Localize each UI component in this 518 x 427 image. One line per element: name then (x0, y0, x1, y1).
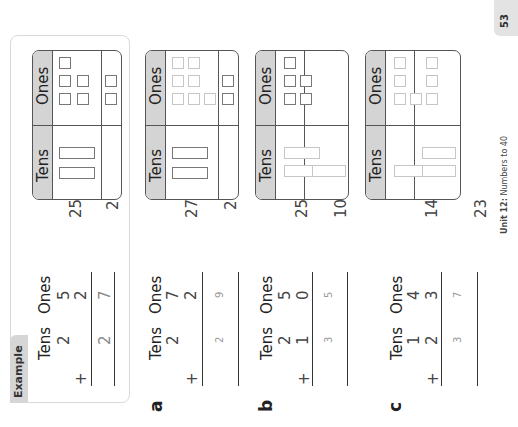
one-cube (105, 75, 117, 87)
tens-header: Tens (34, 149, 52, 182)
one-cube (59, 75, 71, 87)
row-divider (218, 51, 219, 200)
one-cube (77, 93, 89, 105)
one-cube (188, 75, 200, 87)
example-label: Example (12, 345, 25, 398)
row2-number: 2 (104, 200, 122, 210)
sum-rule-bottom (114, 272, 115, 386)
sum-rule-bottom (347, 272, 348, 386)
row2-number: 10 (332, 199, 350, 218)
plus-sign: + (424, 372, 442, 385)
row-divider (101, 51, 102, 200)
one-cube (188, 93, 200, 105)
column-divider (256, 125, 349, 126)
row-divider (414, 51, 415, 200)
sum-tens-header: Tens (258, 327, 276, 360)
row-divider (304, 51, 305, 200)
one-cube (188, 57, 200, 69)
one-cube (172, 93, 184, 105)
one-cube (410, 93, 422, 105)
sum-top-ones: 5 (55, 290, 73, 300)
sum-rule-bottom (477, 272, 478, 386)
one-cube (426, 75, 438, 87)
one-cube (59, 93, 71, 105)
tens-header: Tens (257, 149, 275, 182)
sum-ones-header: Ones (388, 276, 406, 314)
sum-add-tens: 2 (423, 335, 441, 345)
one-cube (394, 75, 406, 87)
row1-number: 27 (183, 199, 201, 218)
problem-label-c: c (385, 402, 405, 412)
one-cube (300, 75, 312, 87)
sum-add-ones: 2 (72, 290, 90, 300)
sum-rule-bottom (238, 272, 239, 386)
sum-add-ones: 0 (294, 290, 312, 300)
ten-rod (59, 147, 95, 159)
one-cube (105, 93, 117, 105)
sum-add-tens: 1 (294, 335, 312, 345)
sum-rule-top (202, 272, 203, 386)
column-divider (146, 125, 239, 126)
sum-top-ones: 7 (164, 290, 182, 300)
footer-unit: Unit 12: (500, 198, 509, 234)
footer-title: Numbers to 40 (500, 136, 509, 196)
ten-rod (284, 147, 320, 159)
plus-sign: + (72, 372, 90, 385)
sum-answer-ones: 9 (214, 292, 225, 298)
ones-header: Ones (147, 67, 165, 105)
column-divider (33, 125, 122, 126)
ones-header: Ones (367, 67, 385, 105)
ten-rod (312, 165, 346, 177)
sum-top-tens: 2 (164, 335, 182, 345)
problem-label-a: a (146, 401, 166, 412)
sum-answer-tens: 2 (214, 337, 225, 343)
one-cube (300, 93, 312, 105)
one-cube (222, 75, 234, 87)
footer: Unit 12: Numbers to 40 (500, 136, 509, 234)
ten-rod (422, 147, 456, 159)
one-cube (284, 57, 296, 69)
sum-add-ones: 2 (182, 290, 200, 300)
ones-header: Ones (34, 67, 52, 105)
sum-rule-top (441, 272, 442, 386)
one-cube (394, 57, 406, 69)
one-cube (284, 93, 296, 105)
sum-ones-header: Ones (258, 276, 276, 314)
sum-answer-tens: 3 (323, 337, 334, 343)
ones-header: Ones (257, 67, 275, 105)
one-cube (77, 75, 89, 87)
ten-rod (422, 165, 456, 177)
sum-top-tens: 1 (405, 335, 423, 345)
one-cube (222, 93, 234, 105)
sum-rule-top (312, 272, 313, 386)
sum-answer-tens: 2 (96, 335, 114, 345)
tens-header: Tens (147, 149, 165, 182)
plus-sign: + (183, 372, 201, 385)
sum-top-ones: 4 (405, 290, 423, 300)
row1-number: 14 (423, 199, 441, 218)
sum-add-ones: 3 (423, 290, 441, 300)
ten-rod (59, 167, 95, 179)
sum-rule-top (91, 272, 92, 386)
sum-ones-header: Ones (147, 276, 165, 314)
ten-rod (172, 147, 208, 159)
sum-top-tens: 2 (276, 335, 294, 345)
sum-tens-header: Tens (147, 327, 165, 360)
one-cube (426, 93, 438, 105)
ten-rod (172, 167, 208, 179)
sum-ones-header: Ones (36, 276, 54, 314)
sum-answer-tens: 3 (452, 337, 463, 343)
one-cube (172, 57, 184, 69)
sum-tens-header: Tens (388, 327, 406, 360)
one-cube (426, 57, 438, 69)
page-number: 53 (499, 14, 510, 28)
row1-number: 25 (67, 199, 85, 218)
one-cube (394, 93, 406, 105)
sum-tens-header: Tens (36, 327, 54, 360)
sum-answer-ones: 5 (323, 292, 334, 298)
row1-number: 25 (293, 199, 311, 218)
row2-number: 2 (222, 200, 240, 210)
problem-label-b: b (256, 400, 276, 412)
row2-number: 23 (472, 199, 490, 218)
one-cube (284, 75, 296, 87)
